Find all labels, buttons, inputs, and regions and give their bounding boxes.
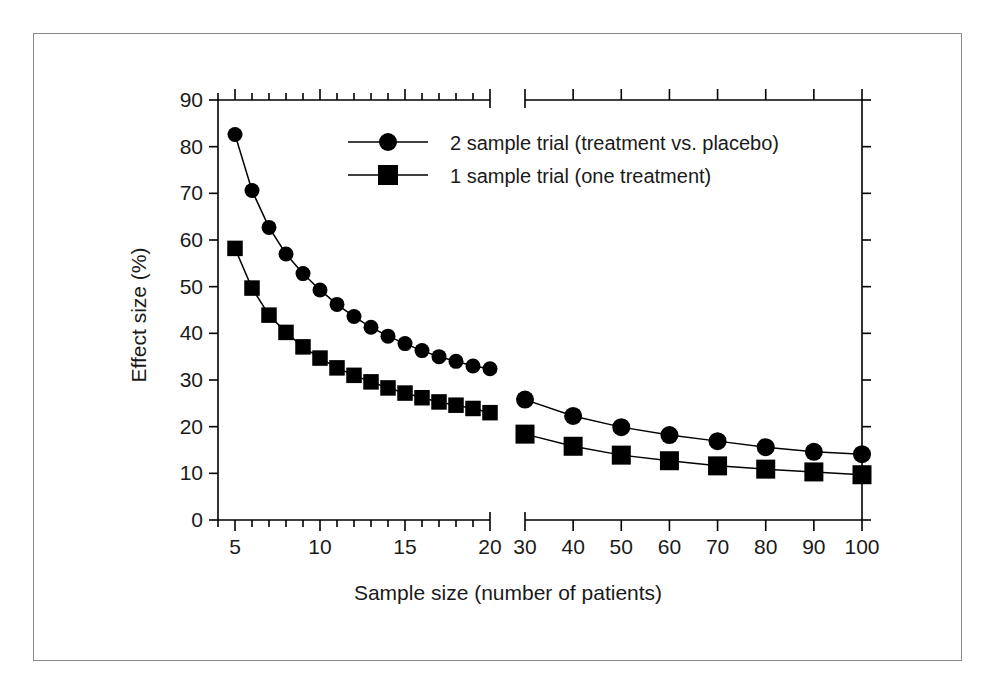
x-tick-label-15: 15	[393, 535, 416, 558]
data-point-circle-90	[805, 443, 823, 461]
data-point-square-19	[465, 401, 481, 417]
y-tick-label-20: 20	[180, 415, 203, 438]
data-point-circle-30	[516, 391, 534, 409]
data-point-square-70	[708, 456, 727, 475]
data-point-square-20	[482, 405, 498, 421]
x-tick-label-40: 40	[561, 535, 584, 558]
y-tick-label-50: 50	[180, 275, 203, 298]
y-tick-label-30: 30	[180, 368, 203, 391]
data-point-square-11	[329, 360, 345, 376]
data-point-circle-70	[709, 432, 727, 450]
x-tick-label-10: 10	[308, 535, 331, 558]
y-tick-label-40: 40	[180, 321, 203, 344]
y-tick-label-0: 0	[191, 508, 203, 531]
x-tick-label-70: 70	[706, 535, 729, 558]
y-tick-label-80: 80	[180, 135, 203, 158]
legend-marker-circle-icon	[379, 133, 397, 151]
data-point-circle-13	[364, 320, 379, 335]
legend-entry-1-sample: 1 sample trial (one treatment)	[348, 165, 711, 187]
y-axis-title: Effect size (%)	[127, 248, 150, 383]
data-point-square-10	[312, 350, 328, 366]
data-point-circle-16	[415, 343, 430, 358]
legend-label-1-sample: 1 sample trial (one treatment)	[450, 165, 711, 187]
data-point-square-60	[660, 451, 679, 470]
x-tick-label-50: 50	[610, 535, 633, 558]
data-point-square-9	[295, 339, 311, 355]
data-point-square-40	[564, 437, 583, 456]
y-tick-label-10: 10	[180, 461, 203, 484]
data-point-circle-11	[330, 297, 345, 312]
data-point-circle-60	[660, 426, 678, 444]
y-tick-label-90: 90	[180, 88, 203, 111]
chart-tick-labels: 0102030405060708090510152030405060708090…	[180, 88, 880, 558]
x-axis-title: Sample size (number of patients)	[354, 581, 662, 604]
x-tick-label-90: 90	[802, 535, 825, 558]
data-point-circle-14	[381, 329, 396, 344]
y-tick-label-70: 70	[180, 181, 203, 204]
data-point-circle-12	[347, 309, 362, 324]
data-point-circle-18	[449, 354, 464, 369]
data-point-circle-20	[483, 361, 498, 376]
data-point-square-16	[414, 390, 430, 406]
data-point-square-14	[380, 380, 396, 396]
data-point-square-7	[261, 307, 277, 323]
data-point-circle-7	[262, 220, 277, 235]
data-point-circle-8	[279, 247, 294, 262]
data-point-circle-50	[612, 418, 630, 436]
data-point-circle-100	[853, 445, 871, 463]
data-point-square-90	[804, 462, 823, 481]
data-point-square-30	[516, 425, 535, 444]
x-tick-label-30: 30	[513, 535, 536, 558]
data-point-square-15	[397, 385, 413, 401]
data-point-square-80	[756, 460, 775, 479]
data-point-circle-10	[313, 282, 328, 297]
chart-legend: 2 sample trial (treatment vs. placebo) 1…	[348, 132, 779, 187]
x-tick-label-5: 5	[229, 535, 241, 558]
data-point-square-12	[346, 368, 362, 384]
data-point-circle-15	[398, 336, 413, 351]
x-tick-label-100: 100	[844, 535, 879, 558]
legend-entry-2-sample: 2 sample trial (treatment vs. placebo)	[348, 132, 779, 154]
data-point-circle-80	[757, 438, 775, 456]
data-point-square-100	[853, 465, 872, 484]
series-line-square-left	[235, 248, 490, 412]
data-point-circle-17	[432, 349, 447, 364]
x-tick-label-20: 20	[478, 535, 501, 558]
data-point-square-50	[612, 446, 631, 465]
data-point-circle-6	[245, 183, 260, 198]
data-point-square-17	[431, 394, 447, 410]
data-point-square-6	[244, 280, 260, 296]
data-point-square-8	[278, 325, 294, 341]
data-point-square-18	[448, 397, 464, 413]
legend-label-2-sample: 2 sample trial (treatment vs. placebo)	[450, 132, 779, 154]
y-tick-label-60: 60	[180, 228, 203, 251]
effect-size-vs-sample-size-chart: 0102030405060708090510152030405060708090…	[0, 0, 995, 698]
data-point-circle-9	[296, 266, 311, 281]
data-point-circle-5	[228, 127, 243, 142]
data-point-square-5	[227, 241, 243, 257]
data-point-circle-40	[564, 407, 582, 425]
legend-marker-square-icon	[378, 165, 398, 185]
x-tick-label-60: 60	[658, 535, 681, 558]
data-point-circle-19	[466, 359, 481, 374]
x-tick-label-80: 80	[754, 535, 777, 558]
data-point-square-13	[363, 374, 379, 390]
